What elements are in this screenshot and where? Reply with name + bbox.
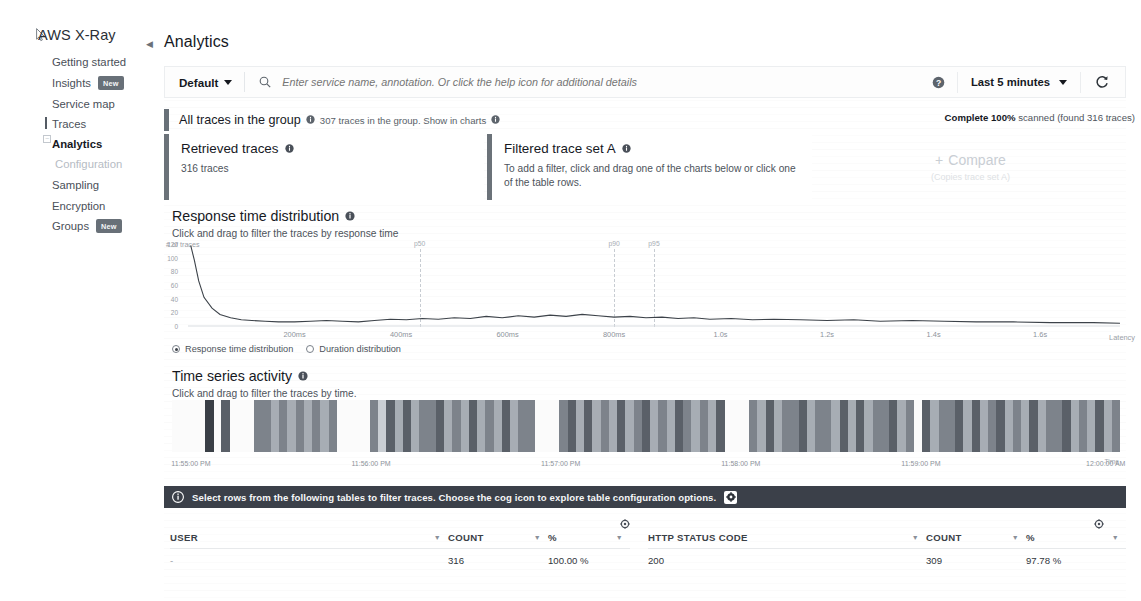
info-icon[interactable]	[345, 211, 355, 221]
page-texture-line	[164, 583, 1126, 584]
table-header-row: HTTP STATUS CODE▼COUNT▼%▼	[648, 527, 1126, 549]
refresh-button[interactable]	[1081, 75, 1125, 89]
compare-sublabel: (Copies trace set A)	[931, 172, 1010, 182]
sidebar-item-label: Analytics	[52, 138, 102, 150]
card-title-row: Filtered trace set A	[504, 141, 804, 156]
time-series-bar	[716, 400, 725, 452]
user-table[interactable]: USER▼COUNT▼%▼-316100.00 %	[170, 527, 630, 571]
page-texture-line	[164, 590, 1126, 591]
retrieved-traces-count: 316 traces	[181, 162, 294, 176]
sidebar-collapse-button[interactable]: ◀	[146, 39, 153, 49]
table-cell: -	[170, 555, 448, 566]
sidebar-item-service-map[interactable]: Service map	[52, 97, 115, 111]
chevron-down-icon	[224, 80, 232, 85]
column-header-count[interactable]: COUNT▼	[448, 527, 548, 548]
refresh-icon	[1095, 75, 1109, 89]
table-row[interactable]: 20030997.78 %	[648, 549, 1126, 571]
sidebar-item-getting-started[interactable]: Getting started	[52, 55, 126, 69]
tsa-x-tick-label: 11:59:00 PM	[901, 460, 940, 467]
sidebar-item-traces[interactable]: Traces	[52, 117, 86, 131]
page-texture-line	[164, 597, 1126, 598]
info-icon[interactable]	[285, 144, 294, 153]
column-header-http-status-code[interactable]: HTTP STATUS CODE▼	[648, 527, 926, 548]
sidebar-item-configuration[interactable]: Configuration	[55, 157, 122, 171]
query-toolbar: Default ? Last 5 minutes	[164, 66, 1126, 98]
info-icon[interactable]	[298, 371, 308, 381]
plus-icon: +	[935, 152, 943, 168]
section-title-text: Response time distribution	[172, 208, 339, 224]
new-badge: New	[98, 76, 124, 90]
time-series-bar	[526, 400, 535, 452]
tsa-x-tick-label: 11:57:00 PM	[541, 460, 580, 467]
radio-duration-distribution[interactable]: Duration distribution	[306, 344, 401, 354]
rtd-x-tick-label: 1.2s	[820, 330, 834, 339]
sidebar-item-analytics[interactable]: Analytics	[52, 137, 102, 151]
time-range-label: Last 5 minutes	[971, 76, 1050, 88]
compare-button[interactable]: + Compare (Copies trace set A)	[815, 134, 1126, 200]
sidebar-item-sampling[interactable]: Sampling	[52, 178, 99, 192]
sidebar-item-groups[interactable]: GroupsNew	[52, 219, 122, 233]
tree-collapse-icon[interactable]: −	[43, 135, 51, 143]
toolbar-right-group: ? Last 5 minutes	[920, 67, 1125, 97]
page-texture-line	[164, 471, 1126, 472]
radio-response-time-distribution[interactable]: Response time distribution	[172, 344, 293, 354]
response-time-section-title: Response time distribution	[172, 208, 355, 224]
filtered-trace-set-a-card[interactable]: Filtered trace set A To add a filter, cl…	[487, 134, 812, 200]
scan-status-rest: scanned (found 316 traces)	[1016, 112, 1135, 123]
column-header-label: COUNT	[448, 532, 484, 543]
gear-icon[interactable]	[724, 491, 737, 504]
page-texture-line	[164, 338, 1126, 339]
sidebar-item-encryption[interactable]: Encryption	[52, 199, 105, 213]
group-subtitle[interactable]: 307 traces in the group. Show in charts	[320, 115, 486, 126]
sort-caret-icon[interactable]: ▼	[1112, 534, 1119, 541]
rtd-x-tick-label: 600ms	[496, 330, 518, 339]
page-texture-line	[164, 380, 1126, 381]
distribution-mode-radios[interactable]: Response time distribution Duration dist…	[172, 344, 401, 354]
sidebar-item-label: Traces	[52, 118, 86, 130]
column-header-label: HTTP STATUS CODE	[648, 532, 748, 543]
time-series-bar	[906, 400, 915, 452]
time-series-activity-chart[interactable]	[172, 400, 1120, 452]
section-title-text: Time series activity	[172, 368, 292, 384]
search-input[interactable]	[280, 75, 920, 89]
response-time-distribution-chart[interactable]	[164, 240, 1126, 328]
column-header-[interactable]: %▼	[548, 527, 630, 548]
info-icon[interactable]	[491, 115, 500, 124]
http-status-code-table[interactable]: HTTP STATUS CODE▼COUNT▼%▼20030997.78 %	[648, 527, 1126, 571]
table-row[interactable]: -316100.00 %	[170, 549, 630, 571]
column-header-[interactable]: %▼	[1026, 527, 1126, 548]
time-range-dropdown[interactable]: Last 5 minutes	[957, 72, 1081, 93]
info-icon	[172, 491, 184, 503]
card-body: Filtered trace set A To add a filter, cl…	[492, 134, 804, 200]
info-icon[interactable]	[306, 115, 315, 124]
search-field-wrapper[interactable]	[245, 75, 920, 89]
page-texture-line	[164, 331, 1126, 332]
column-header-count[interactable]: COUNT▼	[926, 527, 1026, 548]
page-texture-line	[164, 513, 1126, 514]
page-texture-line	[164, 373, 1126, 374]
time-series-section-subtitle: Click and drag to filter the traces by t…	[172, 388, 357, 399]
svg-text:?: ?	[936, 77, 941, 87]
help-icon[interactable]: ?	[920, 76, 957, 89]
sort-caret-icon[interactable]: ▼	[534, 534, 541, 541]
info-icon[interactable]	[622, 144, 631, 153]
sort-caret-icon[interactable]: ▼	[616, 534, 623, 541]
column-header-user[interactable]: USER▼	[170, 527, 448, 548]
sort-caret-icon[interactable]: ▼	[434, 534, 441, 541]
time-series-bar	[1112, 400, 1120, 452]
tsa-x-tick-label: 11:55:00 PM	[171, 460, 210, 467]
retrieved-traces-card[interactable]: Retrieved traces 316 traces	[164, 134, 484, 200]
table-cell: 309	[926, 555, 1026, 566]
table-header-row: USER▼COUNT▼%▼	[170, 527, 630, 549]
radio-dot-selected	[172, 345, 180, 353]
rtd-x-tick-label: 1.4s	[927, 330, 941, 339]
group-text: All traces in the group 307 traces in th…	[179, 113, 500, 127]
time-series-section-title: Time series activity	[172, 368, 308, 384]
sort-caret-icon[interactable]: ▼	[1012, 534, 1019, 541]
tsa-x-tick-label: 11:56:00 PM	[351, 460, 390, 467]
filter-preset-dropdown[interactable]: Default	[165, 67, 244, 97]
sort-caret-icon[interactable]: ▼	[912, 534, 919, 541]
card-title-row: Retrieved traces	[181, 141, 294, 156]
page-texture-line	[164, 100, 1126, 101]
sidebar-item-insights[interactable]: InsightsNew	[52, 76, 124, 90]
